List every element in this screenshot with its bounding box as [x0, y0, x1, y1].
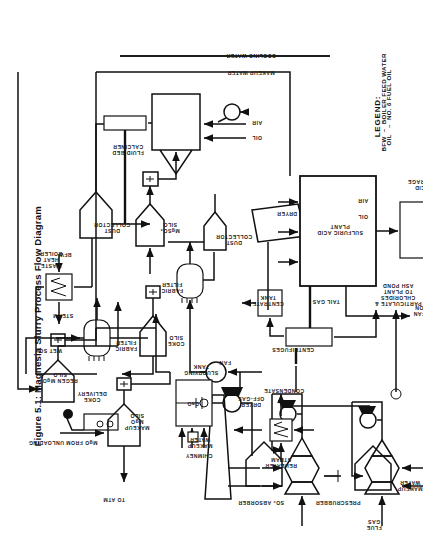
label-cooling-water: COOLING WATER — [222, 53, 280, 59]
label-makeup-water-3: MAKEUP WATER — [222, 70, 280, 76]
equip-makeup-mgo-feeder — [117, 378, 131, 390]
label-acid-storage: ACID STORAGE — [403, 179, 423, 191]
label-particulate: PARTICULATE & CHLORIDES TO PLANT ASH PON… — [363, 283, 423, 307]
label-coke-delivery: COKE DELIVERY — [72, 391, 112, 403]
label-fabric-filter-low: FABRIC FILTER — [152, 282, 192, 294]
label-tail-gas: TAIL GAS — [306, 299, 346, 305]
label-air-calciner: AIR — [246, 120, 268, 126]
label-to-atm: TO ATM — [96, 497, 132, 503]
label-to-id-fan-suction: TO ID FAN SUCTION — [406, 305, 423, 317]
label-so2-absorber: SO₂ ABSORBER — [234, 500, 288, 506]
label-dust-collector-up: DUST COLLECTOR — [88, 222, 136, 234]
label-flue-gas: FLUE GAS — [356, 519, 392, 531]
label-reheater-steam: REHEATER STEAM — [259, 457, 303, 469]
label-oil-dryer: OIL — [352, 214, 374, 220]
label-fluid-bed-calciner: FLUID BED CALCINER — [104, 144, 152, 156]
label-oil-calciner: OIL — [246, 135, 268, 141]
label-makeup-water-2: MAKEUP WATER — [182, 437, 218, 449]
label-cao: CaO — [183, 401, 203, 407]
label-coke-silo: COKE SILO — [160, 335, 192, 347]
process-flow-drawing: FLUE GAS MAKEUP WATER PRESCRUBBER SO₂ AB… — [0, 0, 423, 542]
label-chimney: CHIMNEY — [177, 453, 221, 459]
flowsheet-linework-left — [0, 0, 423, 542]
label-dust-collector-low: DUST COLLECTOR — [210, 234, 258, 246]
label-prescrubber: PRESCRUBBER — [312, 500, 364, 506]
label-bfw: BFW — [54, 252, 76, 258]
label-steam: STEAM — [48, 313, 78, 319]
figure-page: Figure 5.1: Magnesia Slurry Process Flow… — [0, 0, 423, 542]
equip-regen-mgo-feeder — [51, 334, 65, 346]
label-centrifuges: CENTRIFUGES — [268, 347, 318, 353]
label-sulfuric-acid-plant: SULFURIC ACID PLANT — [311, 224, 369, 236]
label-dryer: DRYER — [272, 211, 302, 217]
label-fan: FAN — [214, 360, 236, 366]
label-centrate-tank: CENTRATE TANK — [248, 295, 288, 307]
label-makeup-mgo-silo: MAKEUP MgO SILO — [117, 413, 157, 431]
label-condensate: CONDENSATE — [259, 388, 309, 394]
label-fabric-filter-up: FABRIC FILTER — [106, 340, 146, 352]
label-mgo-from-unloading: MgO FROM UNLOADING — [21, 440, 105, 446]
label-wet-so2: WET SO₂ — [32, 348, 66, 354]
label-air-dryer: AIR — [352, 198, 374, 204]
label-makeup-water-1: MAKEUP WATER — [392, 480, 423, 492]
label-mgso3-silo: MgSO₃ SILO — [154, 222, 186, 234]
label-dryer-off-gas: DRYER OFF-GAS — [231, 396, 271, 408]
label-regen-mgo-silo: REGEN MgO SILO — [37, 372, 83, 384]
